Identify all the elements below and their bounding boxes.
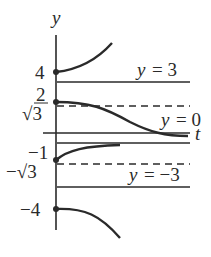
solution-curve-from-neg1 <box>56 145 120 160</box>
y-axis-label: y <box>50 7 61 28</box>
t-axis-label: t <box>195 123 201 144</box>
tick-label-neg-sqrt3: −√3 <box>6 161 37 182</box>
label-yneg3-eq: = −3 <box>144 164 180 185</box>
label-y3-var: y <box>135 59 146 80</box>
solution-curve-from-neg4 <box>56 209 120 238</box>
initial-point-2 <box>53 99 59 105</box>
initial-point-neg4 <box>53 206 59 212</box>
phase-line-diagram: y 4 2 √3 −1 −√3 −4 y = 3 y = 0 t y = −3 <box>0 0 211 257</box>
tick-label-sqrt3: √3 <box>22 103 42 124</box>
label-yneg3-var: y <box>127 164 138 185</box>
initial-point-neg1 <box>53 157 59 163</box>
label-y3-eq: = 3 <box>152 59 177 80</box>
tick-label-neg1: −1 <box>28 142 48 163</box>
tick-label-neg4: −4 <box>20 199 41 220</box>
label-y0-var: y <box>159 109 170 130</box>
tick-label-4: 4 <box>35 62 45 83</box>
initial-point-4 <box>53 69 59 75</box>
solution-curve-from-4 <box>56 43 112 72</box>
tick-label-2: 2 <box>36 84 46 105</box>
